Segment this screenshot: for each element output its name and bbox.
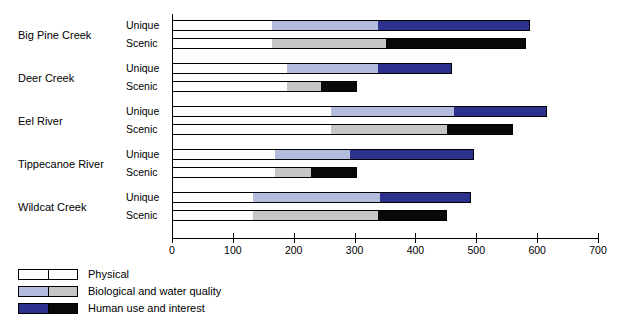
legend-label: Biological and water quality [88, 284, 221, 299]
legend-label: Human use and interest [88, 301, 205, 316]
bar-segment-human-use-and-interest [378, 64, 452, 73]
x-tick [476, 238, 477, 243]
stacked-bar-chart: 0100200300400500600700 Big Pine CreekUni… [0, 0, 623, 327]
bar-wildcat-creek-scenic [172, 210, 447, 221]
series-label-unique: Unique [126, 105, 171, 117]
legend-swatch-unique [19, 304, 48, 313]
x-tick-label: 300 [335, 244, 375, 256]
bar-segment-physical [173, 150, 275, 159]
bar-segment-human-use-and-interest [447, 125, 513, 134]
group-label-big-pine-creek: Big Pine Creek [18, 29, 91, 42]
bar-eel-river-unique [172, 106, 547, 117]
legend-swatch-scenic [48, 304, 77, 313]
legend-label: Physical [88, 267, 129, 282]
x-tick-label: 500 [456, 244, 496, 256]
legend-swatch-divider [48, 304, 49, 313]
bar-segment-physical [173, 193, 253, 202]
bar-segment-physical [173, 168, 275, 177]
bar-segment-human-use-and-interest [350, 150, 474, 159]
legend-item: Biological and water quality [18, 284, 318, 301]
legend-swatch [18, 303, 78, 314]
bar-deer-creek-scenic [172, 81, 357, 92]
bar-big-pine-creek-unique [172, 20, 530, 31]
x-tick-label: 600 [517, 244, 557, 256]
x-tick-inner [415, 233, 416, 238]
x-tick [598, 238, 599, 243]
series-label-scenic: Scenic [126, 209, 171, 221]
bar-segment-physical [173, 107, 331, 116]
bar-segment-physical [173, 21, 272, 30]
group-label-tippecanoe-river: Tippecanoe River [18, 158, 104, 171]
bar-deer-creek-unique [172, 63, 452, 74]
x-axis-line [172, 238, 599, 239]
bar-eel-river-scenic [172, 124, 513, 135]
bar-segment-biological-and-water-quality [331, 107, 454, 116]
legend-swatch-unique [19, 270, 48, 279]
legend-swatch-divider [48, 287, 49, 296]
bar-segment-biological-and-water-quality [287, 64, 378, 73]
x-tick [233, 238, 234, 243]
series-label-scenic: Scenic [126, 80, 171, 92]
chart-legend: PhysicalBiological and water qualityHuma… [18, 267, 318, 318]
bar-segment-human-use-and-interest [386, 39, 526, 48]
x-tick [355, 238, 356, 243]
x-tick-label: 400 [395, 244, 435, 256]
bar-segment-human-use-and-interest [380, 193, 471, 202]
bar-segment-physical [173, 125, 331, 134]
bar-segment-human-use-and-interest [454, 107, 548, 116]
legend-swatch-scenic [48, 270, 77, 279]
bar-tippecanoe-river-scenic [172, 167, 357, 178]
bar-segment-biological-and-water-quality [287, 82, 322, 91]
legend-item: Physical [18, 267, 318, 284]
x-tick-label: 0 [152, 244, 192, 256]
bar-segment-human-use-and-interest [321, 82, 357, 91]
bar-tippecanoe-river-unique [172, 149, 474, 160]
x-tick-inner [598, 233, 599, 238]
x-tick [172, 238, 173, 243]
x-tick-label: 200 [274, 244, 314, 256]
series-label-scenic: Scenic [126, 166, 171, 178]
legend-swatch [18, 269, 78, 280]
x-tick-inner [233, 233, 234, 238]
bar-segment-human-use-and-interest [378, 211, 447, 220]
bar-segment-biological-and-water-quality [253, 193, 380, 202]
legend-swatch-divider [48, 270, 49, 279]
legend-swatch-scenic [48, 287, 77, 296]
bar-segment-physical [173, 211, 253, 220]
series-label-unique: Unique [126, 19, 171, 31]
x-tick-inner [294, 233, 295, 238]
bar-segment-biological-and-water-quality [272, 39, 386, 48]
bar-segment-biological-and-water-quality [275, 168, 311, 177]
x-tick-label: 100 [213, 244, 253, 256]
bar-segment-physical [173, 39, 272, 48]
series-label-unique: Unique [126, 191, 171, 203]
series-label-unique: Unique [126, 62, 171, 74]
bar-segment-biological-and-water-quality [253, 211, 378, 220]
bar-segment-biological-and-water-quality [272, 21, 378, 30]
group-label-wildcat-creek: Wildcat Creek [18, 201, 86, 214]
x-tick [537, 238, 538, 243]
bar-big-pine-creek-scenic [172, 38, 526, 49]
bar-segment-human-use-and-interest [311, 168, 357, 177]
x-tick-inner [172, 233, 173, 238]
series-label-scenic: Scenic [126, 37, 171, 49]
group-label-deer-creek: Deer Creek [18, 72, 74, 85]
x-tick-inner [476, 233, 477, 238]
group-label-eel-river: Eel River [18, 115, 63, 128]
x-tick-label: 700 [578, 244, 618, 256]
series-label-unique: Unique [126, 148, 171, 160]
bar-segment-physical [173, 64, 287, 73]
series-label-scenic: Scenic [126, 123, 171, 135]
bar-segment-physical [173, 82, 287, 91]
legend-swatch [18, 286, 78, 297]
x-tick [415, 238, 416, 243]
x-tick-inner [537, 233, 538, 238]
bar-segment-human-use-and-interest [378, 21, 530, 30]
legend-swatch-unique [19, 287, 48, 296]
x-tick-inner [355, 233, 356, 238]
legend-item: Human use and interest [18, 301, 318, 318]
x-tick [294, 238, 295, 243]
bar-wildcat-creek-unique [172, 192, 471, 203]
bar-segment-biological-and-water-quality [275, 150, 350, 159]
bar-segment-biological-and-water-quality [331, 125, 447, 134]
